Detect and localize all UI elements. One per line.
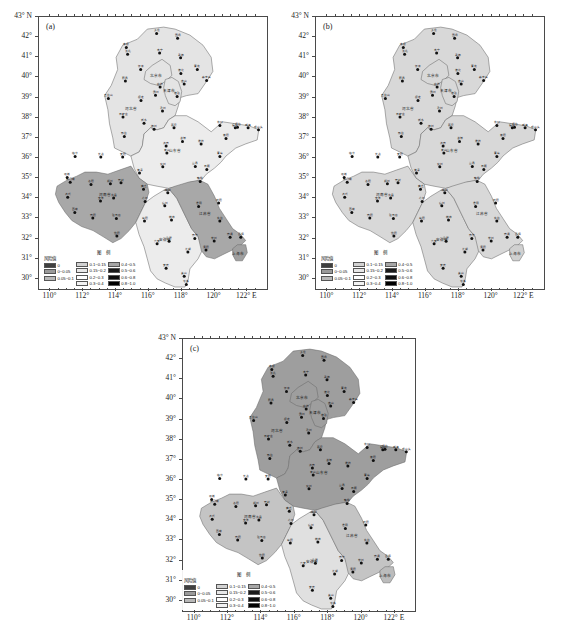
x-minor-tickmark bbox=[252, 336, 253, 338]
y-tickmark bbox=[312, 258, 315, 259]
station-label: 三门峡 bbox=[210, 499, 219, 503]
station-label: 丰宁 bbox=[303, 370, 309, 374]
station-dot bbox=[239, 236, 242, 239]
y-tick-label: 37° bbox=[140, 455, 176, 463]
x-minor-tickmark bbox=[392, 14, 393, 16]
x-minor-tickmark bbox=[294, 610, 295, 612]
x-minor-tickmark bbox=[433, 14, 434, 16]
station-dot bbox=[213, 503, 216, 506]
station-dot bbox=[495, 220, 498, 223]
station-label: 淄博 bbox=[180, 136, 186, 140]
legend-column-1: 0.1~0.150.15~0.20.2~0.30.3~0.4 bbox=[76, 255, 106, 287]
station-label: 淄博 bbox=[457, 136, 463, 140]
station-label: 石家庄 bbox=[396, 112, 405, 116]
x-minor-tickmark bbox=[474, 288, 475, 290]
legend-entry: 0.8~1.0 bbox=[248, 603, 276, 609]
y-tickmark bbox=[35, 177, 38, 178]
station-dot bbox=[179, 72, 182, 75]
station-dot bbox=[392, 235, 395, 238]
station-dot bbox=[120, 181, 123, 184]
legend-swatch bbox=[248, 584, 260, 589]
x-minor-tickmark bbox=[230, 288, 231, 290]
station-label: 多伦 bbox=[300, 350, 306, 354]
station-label: 承德 bbox=[324, 375, 330, 379]
x-minor-tickmark bbox=[156, 288, 157, 290]
x-minor-tickmark bbox=[140, 14, 141, 16]
station-dot bbox=[333, 573, 336, 576]
station-label: 青龙 bbox=[194, 64, 200, 68]
legend-entry: 0.8~1.0 bbox=[385, 281, 413, 287]
station-label: 康保 bbox=[269, 364, 275, 368]
x-minor-tickmark bbox=[499, 288, 500, 290]
station-dot bbox=[158, 51, 161, 54]
station-dot bbox=[351, 571, 354, 574]
y-tickmark bbox=[312, 278, 315, 279]
y-tickmark bbox=[179, 519, 182, 520]
x-minor-tickmark bbox=[515, 14, 516, 16]
station-dot bbox=[351, 155, 354, 158]
station-label: 阜阳 bbox=[287, 538, 293, 542]
x-minor-tickmark bbox=[90, 288, 91, 290]
y-tickmark bbox=[312, 117, 315, 118]
x-minor-tickmark bbox=[343, 288, 344, 290]
x-minor-tickmark bbox=[336, 610, 337, 612]
station-dot bbox=[476, 180, 479, 183]
legend-entry-label: 0.2~0.3 bbox=[229, 597, 243, 602]
x-minor-tickmark bbox=[246, 288, 247, 290]
station-label: 霸州 bbox=[430, 90, 436, 94]
legend-columns: 风险值00~0.050.05~0.1 0.1~0.150.15~0.20.2~0… bbox=[44, 255, 135, 287]
legend-swatch bbox=[248, 590, 260, 595]
station-dot bbox=[218, 124, 221, 127]
y-tickmark bbox=[35, 137, 38, 138]
x-minor-tickmark bbox=[302, 336, 303, 338]
station-label: 驻马店 bbox=[257, 535, 266, 539]
y-tick-label: 40° bbox=[0, 72, 32, 80]
legend-swatch bbox=[108, 268, 120, 273]
station-dot bbox=[261, 557, 264, 560]
y-tick-label: 32° bbox=[0, 234, 32, 242]
y-tickmark bbox=[35, 117, 38, 118]
legend-swatch bbox=[108, 281, 120, 286]
legend-entry-label: 0.1~0.15 bbox=[89, 262, 105, 267]
x-minor-tickmark bbox=[326, 14, 327, 16]
x-minor-tickmark bbox=[359, 288, 360, 290]
legend-entry-label: 0 bbox=[335, 263, 337, 268]
x-minor-tickmark bbox=[66, 288, 67, 290]
province-label: 河北省 bbox=[271, 428, 283, 433]
x-minor-tickmark bbox=[343, 14, 344, 16]
station-label: 遵化 bbox=[455, 68, 461, 72]
station-label: 南京 bbox=[469, 233, 475, 237]
station-dot bbox=[534, 128, 537, 131]
legend-entry-label: 0.5~0.6 bbox=[398, 268, 412, 273]
legend-column-2: 0.4~0.50.5~0.60.6~0.80.8~1.0 bbox=[385, 255, 413, 287]
station-label: 芜湖 bbox=[185, 247, 191, 251]
station-label: 惠民 bbox=[171, 123, 177, 127]
station-label: 驻马店 bbox=[112, 213, 121, 217]
station-label: 龙口 bbox=[364, 442, 370, 446]
legend-entry: 0.1~0.15 bbox=[353, 262, 383, 268]
station-label: 日照 bbox=[481, 164, 487, 168]
legend-entry-label: 0.5~0.6 bbox=[121, 268, 135, 273]
panel-label-b: (b) bbox=[323, 22, 332, 31]
station-label: 安庆 bbox=[163, 263, 169, 267]
station-label: 菏泽 bbox=[137, 168, 143, 172]
legend-swatch bbox=[248, 603, 260, 608]
station-label: 开封 bbox=[264, 500, 270, 504]
station-label: 潍坊 bbox=[198, 139, 204, 143]
x-minor-tickmark bbox=[344, 336, 345, 338]
legend-columns: 风险值00~0.050.05~0.1 0.1~0.150.15~0.20.2~0… bbox=[184, 577, 275, 609]
station-label: 成山头 bbox=[531, 125, 540, 129]
station-label: 南通 bbox=[227, 232, 233, 236]
x-minor-tickmark bbox=[352, 610, 353, 612]
y-tick-label: 37° bbox=[0, 133, 32, 141]
legend-swatch bbox=[76, 262, 88, 267]
legend-entry: 0.3~0.4 bbox=[353, 281, 383, 287]
station-label: 东台 bbox=[217, 216, 223, 220]
station-label: 丰宁 bbox=[157, 48, 163, 52]
x-minor-tickmark bbox=[230, 14, 231, 16]
station-dot bbox=[430, 128, 433, 131]
y-tickmark bbox=[179, 378, 182, 379]
station-dot bbox=[115, 217, 118, 220]
x-minor-tickmark bbox=[238, 14, 239, 16]
panel-b: 围场多伦张北康保丰宁承德青龙怀来蔚县遵化秦皇岛唐山廊坊塘沽霸州保定沧州五台山石家… bbox=[281, 0, 561, 320]
